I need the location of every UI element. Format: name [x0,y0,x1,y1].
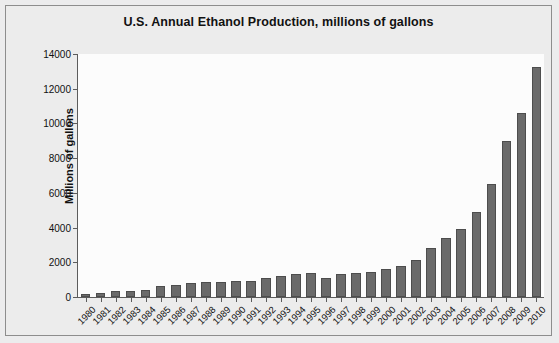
bar-slot [364,54,379,297]
bar[interactable] [532,67,542,297]
bar[interactable] [517,113,527,297]
x-axis-tick-mark [536,297,537,302]
y-axis-tick-label: 0 [16,292,78,303]
bar-slot [439,54,454,297]
x-axis-tick-mark [401,297,402,302]
x-axis-tick-mark [341,297,342,302]
bar[interactable] [306,273,316,297]
bar-slot [258,54,273,297]
x-axis-tick-mark [506,297,507,302]
bar-slot [484,54,499,297]
bar-slot [153,54,168,297]
bar[interactable] [201,282,211,297]
x-axis-tick-mark [416,297,417,302]
x-axis-tick-mark [116,297,117,302]
bar[interactable] [487,184,497,297]
bar[interactable] [246,281,256,297]
bar[interactable] [381,269,391,297]
x-axis-tick-mark [371,297,372,302]
x-axis-tick-mark [521,297,522,302]
x-axis-tick-mark [446,297,447,302]
bar[interactable] [171,285,181,297]
bar-slot [349,54,364,297]
x-axis-tick-mark [311,297,312,302]
y-axis-tick-label: 4000 [16,222,78,233]
bar[interactable] [336,274,346,297]
bar[interactable] [396,266,406,297]
bar[interactable] [456,229,466,297]
x-axis-tick-mark [176,297,177,302]
bar-slot [394,54,409,297]
bar[interactable] [441,238,451,297]
bar-slot [78,54,93,297]
x-axis-tick-mark [296,297,297,302]
bar[interactable] [141,290,151,297]
x-axis-tick-mark [386,297,387,302]
x-axis-tick-mark [281,297,282,302]
bar-slot [93,54,108,297]
bar[interactable] [502,141,512,297]
bar-slot [213,54,228,297]
bar[interactable] [231,281,241,297]
bar[interactable] [411,260,421,297]
x-axis-tick-mark [206,297,207,302]
bar-slot [198,54,213,297]
bar-slot [529,54,544,297]
bar-slot [334,54,349,297]
x-axis-tick-mark [146,297,147,302]
bar-slot [273,54,288,297]
y-axis-tick-label: 6000 [16,187,78,198]
bar-series [78,54,544,297]
bar[interactable] [351,273,361,297]
x-axis-tick-mark [131,297,132,302]
bar[interactable] [366,272,376,298]
bar-slot [409,54,424,297]
x-axis-tick-mark [461,297,462,302]
y-axis-tick-label: 8000 [16,153,78,164]
bar-slot [469,54,484,297]
x-axis-tick-mark [266,297,267,302]
bar-slot [138,54,153,297]
bar-slot [303,54,318,297]
bar[interactable] [321,278,331,297]
bar[interactable] [276,276,286,297]
x-axis-tick-mark [491,297,492,302]
bar-slot [424,54,439,297]
y-axis-tick-label: 10000 [16,118,78,129]
bar[interactable] [261,278,271,297]
y-axis-tick-mark [73,297,78,298]
x-axis-tick-mark [221,297,222,302]
y-axis-tick-label: 12000 [16,83,78,94]
bar-slot [319,54,334,297]
bar[interactable] [216,282,226,297]
x-axis-tick-mark [161,297,162,302]
bar-slot [228,54,243,297]
x-axis-tick-mark [236,297,237,302]
bar-slot [288,54,303,297]
y-axis-tick-label: 2000 [16,257,78,268]
bar-slot [514,54,529,297]
x-axis-tick-mark [476,297,477,302]
bar[interactable] [472,212,482,297]
x-axis-tick-mark [101,297,102,302]
bar-slot [168,54,183,297]
bar-slot [454,54,469,297]
x-axis-tick-mark [86,297,87,302]
bar[interactable] [156,286,166,297]
x-axis-tick-mark [326,297,327,302]
bar-slot [123,54,138,297]
bar-slot [243,54,258,297]
bar-slot [108,54,123,297]
x-axis-tick-mark [356,297,357,302]
bar-slot [499,54,514,297]
bar[interactable] [186,283,196,297]
x-axis-tick-mark [191,297,192,302]
bar[interactable] [426,248,436,297]
chart-title: U.S. Annual Ethanol Production, millions… [6,15,551,29]
x-axis-tick-mark [431,297,432,302]
plot-area: Millions of gallons 02000400060008000100… [77,54,544,298]
x-axis-tick-mark [251,297,252,302]
bar-slot [379,54,394,297]
bar[interactable] [291,274,301,297]
y-axis-tick-label: 14000 [16,49,78,60]
